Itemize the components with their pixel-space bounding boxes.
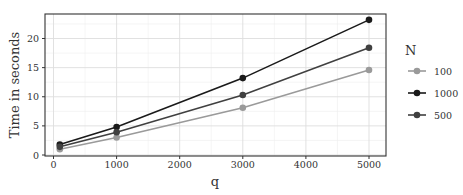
y-tick-label: 5 [33,120,39,131]
y-tick-label: 10 [27,91,39,102]
legend-key-icon [414,112,421,119]
legend-label: 500 [434,110,452,121]
legend-item-500: 500 [408,110,452,121]
data-point [240,75,247,82]
legend-label: 1000 [434,88,458,99]
x-tick-label: 1000 [105,159,129,170]
legend-key-icon [414,68,421,75]
y-tick-label: 0 [33,150,39,161]
x-tick-label: 2000 [168,159,192,170]
legend: N 1001000500 [405,43,458,121]
y-axis-title: Time in seconds [7,32,22,138]
legend-key-icon [414,90,421,97]
x-tick-label: 3000 [231,159,255,170]
y-tick-label: 20 [27,33,39,44]
data-point [240,92,247,99]
x-tick-label: 4000 [294,159,318,170]
data-point [366,67,373,74]
data-point [366,45,373,52]
legend-item-1000: 1000 [408,88,458,99]
legend-title: N [405,43,416,58]
legend-label: 100 [434,66,452,77]
y-axis: 05101520 [27,33,45,161]
y-tick-label: 15 [27,62,39,73]
data-point [240,105,247,112]
data-point [113,129,120,136]
x-tick-label: 0 [50,159,56,170]
line-chart: 05101520 010002000300040005000 Time in s… [0,0,463,195]
legend-item-100: 100 [408,66,452,77]
data-point [57,144,64,151]
data-point [366,17,373,24]
x-tick-label: 5000 [357,159,381,170]
x-axis-title: q [211,174,219,189]
x-axis: 010002000300040005000 [50,156,381,170]
